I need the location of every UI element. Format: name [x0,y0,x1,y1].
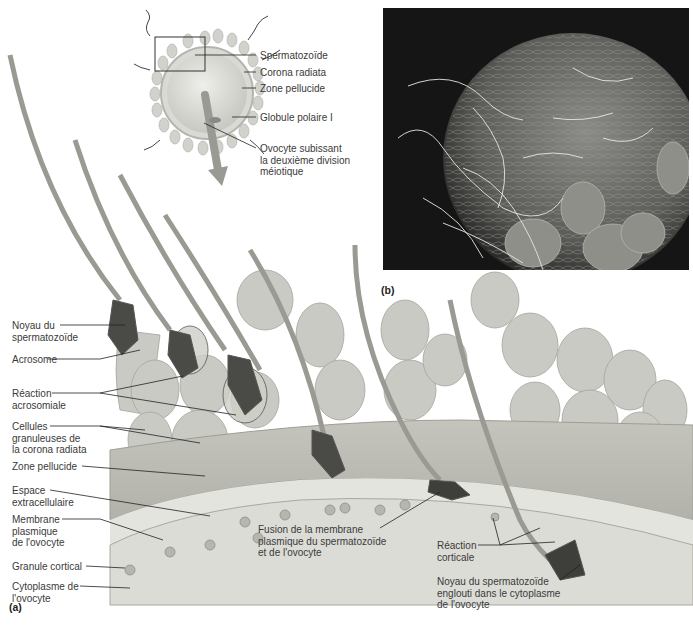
label-corona-radiata: Corona radiata [260,67,326,79]
panel-b-label: (b) [381,284,394,296]
label-ovocyte: Ovocyte subissant la deuxième division m… [260,143,350,178]
label-globule-polaire: Globule polaire I [260,112,333,124]
label-cellules-granuleuses: Cellules granuleuses de la corona radiat… [12,421,87,456]
micrograph-render [383,8,689,270]
label-fusion-membrane: Fusion de la membrane plasmique du sperm… [258,524,386,559]
label-zone-pellucide-inset: Zone pellucide [260,83,325,95]
label-membrane-plasmique: Membrane plasmique de l'ovocyte [12,514,65,549]
label-granule-cortical: Granule cortical [12,561,82,573]
label-noyau-englouti: Noyau du spermatozoïde englouti dans le … [437,576,560,611]
label-cytoplasme: Cytoplasme de l'ovocyte [12,581,79,604]
inset-oocyte [134,10,280,186]
label-spermatozoide: Spermatozoïde [260,50,328,62]
label-reaction-acrosomiale: Réaction acrosomiale [12,388,66,411]
label-zone-pellucide: Zone pellucide [12,461,77,473]
label-acrosome: Acrosome [12,354,57,366]
sem-micrograph [383,8,689,270]
label-noyau-spermatozoide: Noyau du spermatozoïde [12,320,78,343]
label-espace-extracellulaire: Espace extracellulaire [12,485,74,508]
label-reaction-corticale: Réaction corticale [437,540,476,563]
